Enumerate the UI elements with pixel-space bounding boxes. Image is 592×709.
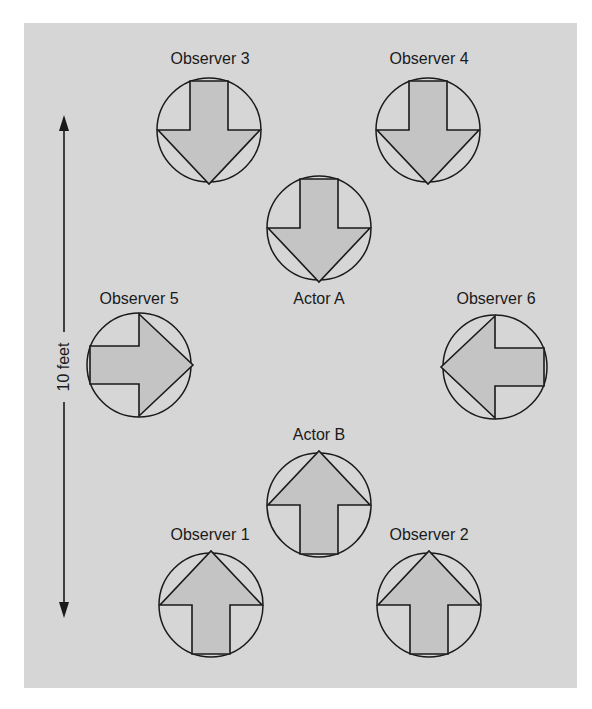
dimension-label: 10 feet	[55, 336, 73, 398]
observer-1-arrow-up-icon	[159, 551, 263, 657]
actor-b-arrow-up-icon	[267, 451, 371, 557]
observer-4-arrow-down-icon	[376, 78, 480, 184]
observer-4-label: Observer 4	[389, 50, 468, 68]
observer-2-label: Observer 2	[389, 526, 468, 544]
observer-5-label: Observer 5	[99, 290, 178, 308]
observer-5-arrow-right-icon	[87, 313, 193, 417]
observer-1-label: Observer 1	[170, 526, 249, 544]
actor-a-label: Actor A	[293, 290, 345, 308]
observer-6-label: Observer 6	[456, 290, 535, 308]
actor-a-arrow-down-icon	[267, 176, 371, 282]
position-diagram	[0, 0, 592, 709]
actor-b-label: Actor B	[293, 426, 345, 444]
observer-3-label: Observer 3	[170, 50, 249, 68]
observer-3-arrow-down-icon	[157, 78, 261, 184]
observer-2-arrow-up-icon	[377, 551, 481, 657]
observer-6-arrow-left-icon	[441, 315, 547, 419]
